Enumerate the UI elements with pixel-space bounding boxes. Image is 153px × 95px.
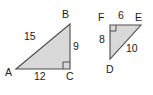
vertex-label-f: F	[98, 12, 104, 23]
side-label-ab-15: 15	[24, 31, 36, 42]
side-label-ac-12: 12	[34, 71, 46, 82]
side-label-de-10: 10	[126, 43, 138, 54]
side-label-fd-8: 8	[99, 34, 105, 45]
side-label-fe-6: 6	[118, 10, 124, 21]
vertex-label-e: E	[135, 12, 142, 23]
vertex-label-b: B	[62, 9, 69, 20]
geometry-figure: A B C 15 9 12 F E D 6 8 10	[0, 0, 153, 95]
side-label-bc-9: 9	[73, 41, 79, 52]
vertex-label-a: A	[5, 67, 12, 78]
vertex-label-c: C	[66, 71, 74, 82]
vertex-label-d: D	[106, 64, 114, 75]
